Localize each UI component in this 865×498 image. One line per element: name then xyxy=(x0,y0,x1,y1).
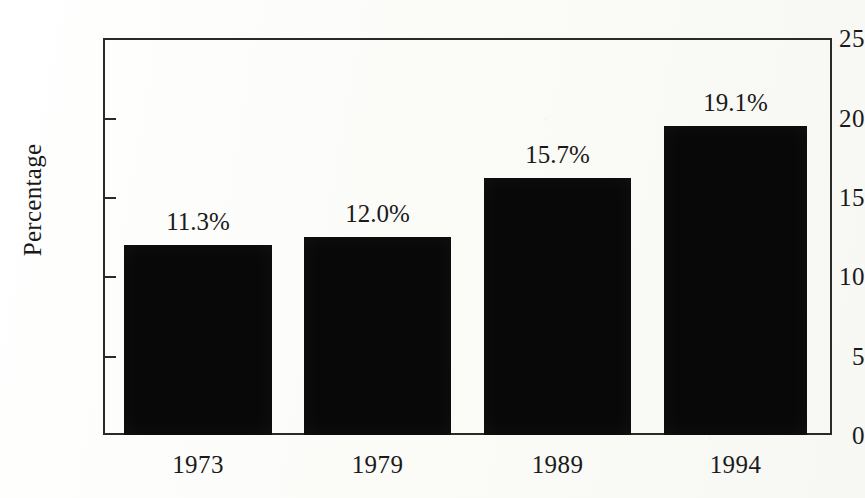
x-tick-label-1979: 1979 xyxy=(304,452,451,477)
bar-value-1994: 19.1% xyxy=(662,90,809,115)
bar-1973 xyxy=(124,245,272,435)
bar-1994 xyxy=(664,126,807,435)
bar-value-1989: 15.7% xyxy=(484,142,631,167)
bar-value-1973: 11.3% xyxy=(124,209,272,234)
x-tick-label-1989: 1989 xyxy=(484,452,631,477)
y-axis-title: Percentage xyxy=(19,105,47,295)
x-tick-label-1994: 1994 xyxy=(664,452,807,477)
bar-chart: Percentage 25 20 15 10 5 0 11.3% 12.0% 1… xyxy=(0,0,865,498)
x-tick-label-1973: 1973 xyxy=(124,452,272,477)
bar-value-1979: 12.0% xyxy=(304,201,451,226)
bar-1989 xyxy=(484,178,631,435)
bar-1979 xyxy=(304,237,451,435)
